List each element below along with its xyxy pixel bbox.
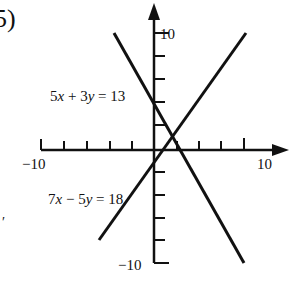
- cropped-fragment-text: 5): [0, 6, 16, 32]
- x-axis-arrowhead: [272, 144, 289, 156]
- y-max-label: 10: [160, 27, 175, 42]
- x-min-label: −10: [22, 157, 45, 172]
- coordinate-plane: [0, 0, 292, 287]
- line-7x-minus-5y-eq-18: [99, 33, 246, 240]
- y-min-label: −10: [118, 258, 141, 273]
- y-axis-ticks: [154, 33, 169, 263]
- graph-figure: 5) ′ 10 −10 −10 10 5x + 3y = 13 7x − 5y …: [0, 0, 292, 287]
- y-axis-arrowhead: [148, 3, 160, 20]
- equation-label-line2: 7x − 5y = 18: [48, 192, 123, 207]
- equation-label-line1: 5x + 3y = 13: [50, 89, 125, 104]
- x-axis-ticks: [41, 138, 244, 150]
- line-5x-plus-3y-eq-13: [114, 33, 244, 263]
- stray-mark: ′: [2, 216, 5, 230]
- x-max-label: 10: [257, 157, 272, 172]
